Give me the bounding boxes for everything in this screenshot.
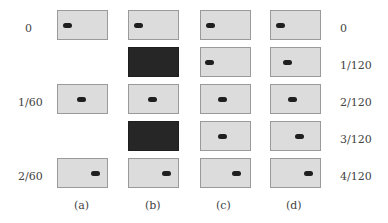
column-label-a: (a) [74, 199, 89, 212]
object-dot [276, 23, 285, 28]
frame-b-4 [128, 158, 179, 188]
right-label-3: 3/120 [340, 133, 372, 146]
object-dot [205, 60, 214, 65]
frame-d-2 [270, 84, 321, 114]
frame-d-3 [270, 121, 321, 151]
frame-c-0 [200, 10, 251, 40]
frame-b-0 [128, 10, 179, 40]
column-label-b: (b) [145, 199, 161, 212]
object-dot [304, 171, 313, 176]
right-label-1: 1/120 [340, 59, 372, 72]
object-dot [63, 23, 72, 28]
left-label-2: 1/60 [18, 96, 43, 109]
frame-d-4 [270, 158, 321, 188]
object-dot [91, 171, 100, 176]
frame-d-0 [270, 10, 321, 40]
object-dot [218, 134, 227, 139]
column-label-d: (d) [286, 199, 302, 212]
object-dot [206, 23, 215, 28]
frame-b-3 [128, 121, 179, 151]
object-dot [232, 171, 241, 176]
right-label-2: 2/120 [340, 96, 372, 109]
object-dot [148, 97, 157, 102]
left-label-4: 2/60 [18, 170, 43, 183]
object-dot [162, 171, 171, 176]
right-label-0: 0 [340, 22, 347, 35]
frame-a-2 [57, 84, 108, 114]
column-label-c: (c) [216, 199, 231, 212]
frame-c-2 [200, 84, 251, 114]
frame-c-4 [200, 158, 251, 188]
right-label-4: 4/120 [340, 170, 372, 183]
frame-d-1 [270, 47, 321, 77]
left-label-0: 0 [25, 22, 32, 35]
object-dot [134, 23, 143, 28]
frame-a-0 [57, 10, 108, 40]
object-dot [77, 97, 86, 102]
frame-a-4 [57, 158, 108, 188]
frame-c-3 [200, 121, 251, 151]
object-dot [295, 134, 304, 139]
object-dot [218, 97, 227, 102]
frame-b-1 [128, 47, 179, 77]
frame-c-1 [200, 47, 251, 77]
object-dot [288, 97, 297, 102]
frame-b-2 [128, 84, 179, 114]
object-dot [283, 60, 292, 65]
